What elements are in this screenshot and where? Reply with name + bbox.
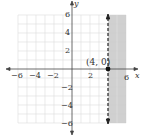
x-tick: 2: [88, 71, 93, 80]
y-axis-label: y: [73, 0, 79, 8]
point-label: (4, 0): [86, 57, 110, 67]
x-tick: −6: [11, 71, 23, 80]
x-axis-label: x: [135, 71, 140, 80]
x-tick: 6: [124, 73, 129, 82]
y-tick: 6: [65, 10, 70, 19]
y-tick: −4: [61, 101, 73, 110]
inequality-graph: (4, 0) x y −6 −4 −2 2 6 6 4 2 −2 −4 −6: [0, 0, 143, 137]
y-tick: −6: [61, 119, 73, 128]
x-tick: −4: [29, 71, 41, 80]
y-tick: −2: [61, 83, 73, 92]
y-tick: 4: [65, 28, 70, 37]
x-tick: −2: [47, 71, 59, 80]
y-tick: 2: [65, 46, 70, 55]
point-4-0: [106, 67, 111, 72]
